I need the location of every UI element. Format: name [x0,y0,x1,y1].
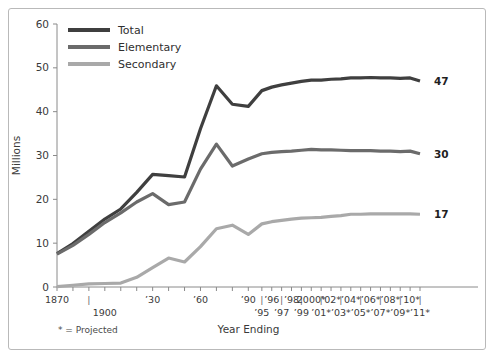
x-tick-label-alt: ’03* [331,307,351,318]
x-label-separator: | [418,294,421,305]
y-tick-label: 0 [42,281,49,293]
x-axis-title: Year Ending [217,323,280,335]
y-tick: 60 [36,18,57,30]
legend-label-secondary: Secondary [118,58,177,71]
end-label-secondary: 17 [434,208,449,220]
y-tick-label: 30 [36,149,49,161]
x-tick-label-alt: ’99 [294,307,309,318]
y-tick-label: 10 [36,237,49,249]
chart-svg: 0102030405060Millions473017TotalElementa… [0,0,498,362]
x-label-separator: | [280,294,283,305]
end-label-elementary: 30 [434,148,449,160]
y-tick: 30 [36,149,57,161]
legend-label-total: Total [117,24,144,37]
x-tick-label-alt: ’07* [371,307,391,318]
x-tick-label-alt: ’11* [410,307,430,318]
series-line-secondary [57,214,420,287]
x-tick-label: ’08* [380,294,400,305]
x-tick-label: ’06* [361,294,381,305]
x-tick-label-alt: ’05* [351,307,371,318]
x-tick-label: ’02* [321,294,341,305]
end-label-total: 47 [434,75,449,87]
x-tick-label: ’90 [241,294,256,305]
y-tick-label: 20 [36,193,49,205]
y-tick-label: 60 [36,18,49,30]
series-line-elementary [57,144,420,254]
x-label-separator: | [260,294,263,305]
x-tick-label: ’04* [341,294,361,305]
y-tick: 50 [36,61,57,73]
y-axis-title: Millions [10,136,22,175]
y-tick: 0 [42,281,57,293]
x-tick-label: 1870 [45,294,69,305]
y-tick: 20 [36,193,57,205]
chart-figure: 0102030405060Millions473017TotalElementa… [0,0,498,362]
x-tick-label: ’10* [400,294,420,305]
footnote: * = Projected [58,325,118,335]
y-tick-label: 50 [36,61,49,73]
x-label-separator: | [87,294,90,305]
x-tick-label-alt: ’01* [311,307,331,318]
x-tick-label: ’30 [145,294,160,305]
legend-label-elementary: Elementary [118,41,182,54]
y-tick: 10 [36,237,57,249]
y-tick: 40 [36,105,57,117]
x-tick-label-alt: ’09* [390,307,410,318]
x-tick-label-alt: 1900 [93,307,117,318]
x-tick-label-alt: ’95 [254,307,269,318]
x-tick-label: ’96 [264,294,279,305]
x-tick-label: ’60 [193,294,208,305]
y-tick-label: 40 [36,105,49,117]
x-tick-label-alt: ’97 [274,307,289,318]
